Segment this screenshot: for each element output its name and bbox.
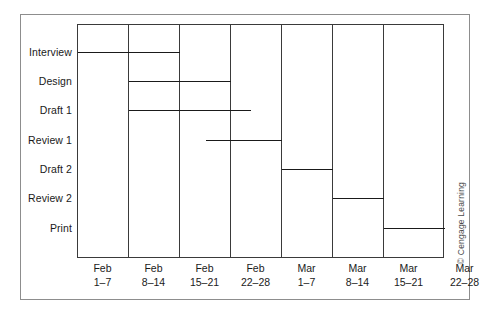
gantt-chart-figure: InterviewDesignDraft 1Review 1Draft 2Rev… <box>0 0 494 319</box>
task-bar <box>333 198 384 199</box>
task-bar <box>78 52 180 53</box>
copyright-credit: © Cengage Learning <box>456 182 466 264</box>
task-bar <box>129 81 231 82</box>
x-tick-days: 15–21 <box>190 276 219 290</box>
x-tick-month: Feb <box>241 262 270 276</box>
grid-line-vertical <box>128 25 129 257</box>
task-row-label: Draft 1 <box>40 104 72 116</box>
x-axis-tick: Feb8–14 <box>142 262 165 289</box>
x-tick-month: Mar <box>346 262 369 276</box>
x-tick-month: Mar <box>394 262 423 276</box>
x-tick-days: 15–21 <box>394 276 423 290</box>
grid-line-vertical <box>383 25 384 257</box>
x-tick-month: Feb <box>93 262 111 276</box>
x-tick-month: Feb <box>190 262 219 276</box>
grid-line-vertical <box>332 25 333 257</box>
x-axis-tick: Feb22–28 <box>241 262 270 289</box>
task-bar <box>384 228 445 229</box>
task-row-label: Review 1 <box>28 134 72 146</box>
task-row-label: Design <box>39 75 72 87</box>
task-bar <box>206 140 283 141</box>
x-tick-days: 22–28 <box>241 276 270 290</box>
task-row-label: Draft 2 <box>40 163 72 175</box>
x-tick-days: 22–28 <box>450 276 479 290</box>
task-bar <box>129 110 251 111</box>
task-bar <box>282 169 333 170</box>
x-axis-tick: Mar22–28 <box>450 262 479 289</box>
x-axis-tick-labels: Feb1–7Feb8–14Feb15–21Feb22–28Mar1–7Mar8–… <box>77 262 444 298</box>
task-row-label: Print <box>50 222 72 234</box>
x-tick-days: 1–7 <box>297 276 315 290</box>
x-axis-tick: Feb1–7 <box>93 262 111 289</box>
x-axis-tick: Feb15–21 <box>190 262 219 289</box>
grid-line-vertical <box>281 25 282 257</box>
x-axis-tick: Mar15–21 <box>394 262 423 289</box>
x-tick-days: 8–14 <box>142 276 165 290</box>
grid-line-vertical <box>230 25 231 257</box>
chart-plot-area <box>77 24 444 258</box>
x-tick-month: Mar <box>297 262 315 276</box>
task-row-label: Interview <box>29 46 72 58</box>
x-axis-tick: Mar8–14 <box>346 262 369 289</box>
x-tick-month: Feb <box>142 262 165 276</box>
x-tick-days: 8–14 <box>346 276 369 290</box>
task-label-column: InterviewDesignDraft 1Review 1Draft 2Rev… <box>0 0 72 319</box>
x-tick-days: 1–7 <box>93 276 111 290</box>
x-axis-tick: Mar1–7 <box>297 262 315 289</box>
task-row-label: Review 2 <box>28 192 72 204</box>
grid-line-vertical <box>179 25 180 257</box>
